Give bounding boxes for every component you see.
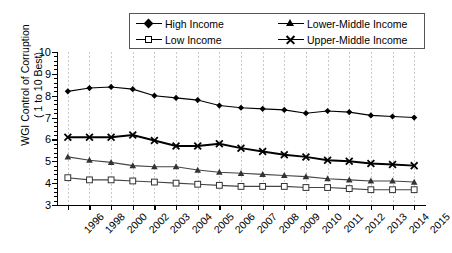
y-axis-tick-label: 4 [31, 178, 51, 189]
y-axis-tick-label: 8 [31, 91, 51, 102]
y-axis-tick-label: 10 [31, 47, 51, 58]
x-axis-tick [111, 205, 112, 210]
x-axis-tick [306, 205, 307, 210]
legend-label: Upper-Middle Income [304, 34, 407, 46]
x-axis-tick [154, 205, 155, 210]
x-marker-icon [278, 33, 304, 46]
x-axis-tick [89, 205, 90, 210]
x-axis-tick [241, 205, 242, 210]
x-axis-tick-label: 2008 [276, 211, 300, 235]
x-axis-tick-label: 2009 [298, 211, 322, 235]
x-axis-tick [68, 205, 69, 210]
x-axis-tick-label: 2000 [125, 211, 149, 235]
legend-item-high-income: High Income [136, 16, 276, 31]
triangle-marker-icon [278, 17, 304, 30]
x-axis-tick [219, 205, 220, 210]
y-axis-tick-label: 9 [31, 69, 51, 80]
y-axis-tick-label: 6 [31, 134, 51, 145]
chart-legend: High Income Lower-Middle Income Low Inco… [129, 13, 425, 49]
x-axis-tick-label: 2004 [190, 211, 214, 235]
x-axis-tick [393, 205, 394, 210]
series-low-income [65, 175, 417, 193]
x-axis-tick-label: 1996 [82, 211, 106, 235]
x-axis-tick-label: 2010 [320, 211, 344, 235]
x-axis-tick [176, 205, 177, 210]
x-axis-tick [133, 205, 134, 210]
x-axis-tick-label: 2013 [385, 211, 409, 235]
legend-item-upper-middle-income: Upper-Middle Income [278, 32, 424, 47]
x-axis-tick-label: 2007 [255, 211, 279, 235]
x-axis-tick-label: 1998 [103, 211, 127, 235]
y-axis-tick [52, 205, 57, 206]
x-axis-tick-label: 2011 [341, 211, 365, 235]
series-high-income [65, 84, 418, 121]
x-axis-tick [198, 205, 199, 210]
x-axis-tick-label: 2002 [147, 211, 171, 235]
x-axis-tick-label: 2012 [363, 211, 387, 235]
legend-label: Lower-Middle Income [304, 18, 407, 30]
x-axis-tick [371, 205, 372, 210]
legend-item-lower-middle-income: Lower-Middle Income [278, 16, 424, 31]
y-axis-tick-label: 7 [31, 113, 51, 124]
square-marker-icon [136, 33, 162, 46]
x-axis-tick-label: 2003 [168, 211, 192, 235]
plot-area [57, 52, 425, 205]
x-axis-tick-label: 2014 [406, 211, 430, 235]
x-axis-tick [349, 205, 350, 210]
y-axis-tick-label: 3 [31, 200, 51, 211]
x-axis-tick-label: 2005 [212, 211, 236, 235]
x-axis-tick [328, 205, 329, 210]
x-axis-tick [414, 205, 415, 210]
x-axis-tick [263, 205, 264, 210]
series-layer [57, 52, 425, 205]
legend-label: Low Income [162, 34, 222, 46]
diamond-marker-icon [136, 17, 162, 30]
x-axis-tick-label: 2015 [428, 211, 452, 235]
legend-item-low-income: Low Income [136, 32, 276, 47]
x-axis-tick [284, 205, 285, 210]
y-axis-tick-label: 5 [31, 156, 51, 167]
legend-label: High Income [162, 18, 224, 30]
x-axis-tick-label: 2006 [233, 211, 257, 235]
